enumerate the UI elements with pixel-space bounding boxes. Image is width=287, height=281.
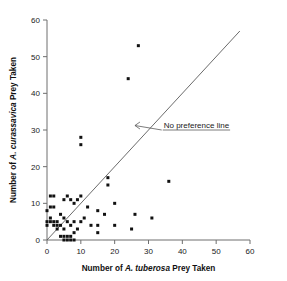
data-point (56, 220, 59, 223)
data-point (46, 224, 49, 227)
data-point (52, 224, 55, 227)
data-point (137, 44, 140, 47)
x-tick-label-0: 0 (45, 247, 50, 256)
data-point (46, 209, 49, 212)
x-tick-label-30: 30 (144, 247, 153, 256)
data-point (96, 224, 99, 227)
data-point (49, 220, 52, 223)
data-point (66, 239, 69, 242)
data-point (56, 224, 59, 227)
x-tick-label-60: 60 (246, 247, 255, 256)
data-point (73, 231, 76, 234)
data-point (76, 228, 79, 231)
data-point (62, 228, 65, 231)
data-point (127, 77, 130, 80)
annotation-label: No preference line (164, 121, 230, 130)
data-point (79, 136, 82, 139)
data-point (46, 220, 49, 223)
data-point (73, 239, 76, 242)
data-point (76, 198, 79, 201)
data-point (73, 202, 76, 205)
x-tick-label-40: 40 (178, 247, 187, 256)
data-point (56, 228, 59, 231)
y-tick-label-20: 20 (31, 163, 40, 172)
data-point (150, 217, 153, 220)
data-point (89, 224, 92, 227)
y-tick-label-0: 0 (36, 236, 41, 245)
y-tick-label-50: 50 (31, 53, 40, 62)
data-point (133, 213, 136, 216)
data-points-group (46, 44, 171, 241)
data-point (79, 220, 82, 223)
no-preference-line (47, 31, 240, 240)
scatter-plot-figure: 0102030405060 0102030405060 No preferenc… (0, 0, 287, 281)
data-point (130, 228, 133, 231)
data-point (62, 217, 65, 220)
data-point (86, 206, 89, 209)
data-point (66, 220, 69, 223)
data-point (96, 231, 99, 234)
data-point (167, 180, 170, 183)
data-point (49, 195, 52, 198)
data-point (69, 235, 72, 238)
data-point (59, 213, 62, 216)
y-tick-label-10: 10 (31, 199, 40, 208)
data-point (62, 235, 65, 238)
reference-line-segment (47, 31, 240, 240)
data-point (52, 195, 55, 198)
data-point (113, 202, 116, 205)
y-tick-label-60: 60 (31, 16, 40, 25)
y-axis-ticks: 0102030405060 (31, 16, 47, 245)
x-tick-label-20: 20 (110, 247, 119, 256)
data-point (113, 224, 116, 227)
annotation-arrow-head-upper (135, 122, 140, 126)
y-tick-label-40: 40 (31, 89, 40, 98)
data-point (79, 143, 82, 146)
x-axis-title: Number of A. tuberosa Prey Taken (82, 264, 216, 273)
data-point (106, 176, 109, 179)
data-point (73, 220, 76, 223)
data-point (49, 217, 52, 220)
data-point (49, 206, 52, 209)
data-point (66, 235, 69, 238)
annotation-arrow-shaft (135, 126, 162, 131)
data-point (52, 206, 55, 209)
data-point (59, 224, 62, 227)
data-point (59, 235, 62, 238)
data-point (83, 217, 86, 220)
plot-canvas: 0102030405060 0102030405060 No preferenc… (0, 0, 287, 281)
data-point (66, 195, 69, 198)
x-axis-ticks: 0102030405060 (45, 240, 255, 256)
data-point (62, 239, 65, 242)
data-point (106, 184, 109, 187)
x-tick-label-50: 50 (212, 247, 221, 256)
data-point (96, 209, 99, 212)
x-tick-label-10: 10 (76, 247, 85, 256)
data-point (79, 195, 82, 198)
data-point (69, 224, 72, 227)
data-point (69, 239, 72, 242)
data-point (69, 198, 72, 201)
data-point (52, 220, 55, 223)
y-axis-title: Number of A. curassavica Prey Taken (9, 57, 18, 203)
data-point (103, 213, 106, 216)
y-tick-label-30: 30 (31, 126, 40, 135)
data-point (62, 198, 65, 201)
